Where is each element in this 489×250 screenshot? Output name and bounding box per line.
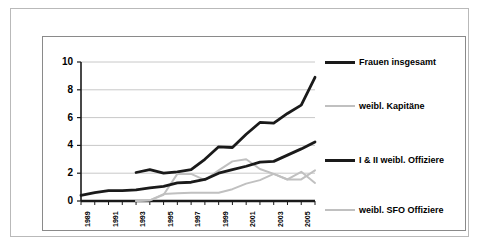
legend-line-swatch	[325, 209, 355, 211]
x-tick-label: 1997	[194, 211, 201, 227]
legend-item-0[interactable]: Frauen insgesamt	[325, 57, 436, 67]
x-tick-label: 1989	[84, 211, 91, 227]
x-tick-label: 1993	[139, 211, 146, 227]
legend-label: Frauen insgesamt	[359, 57, 436, 67]
series-line-2	[81, 142, 315, 196]
plot-area: 0246810 19891991199319951997199920012003…	[43, 37, 467, 232]
y-tick-label: 2	[53, 168, 73, 178]
legend-item-1[interactable]: weibl. Kapitäne	[325, 101, 425, 111]
x-tick-label: 1999	[222, 211, 229, 227]
legend-item-3[interactable]: weibl. SFO Offiziere	[325, 205, 444, 215]
y-tick-label: 0	[53, 196, 73, 206]
x-tick-label: 1991	[112, 211, 119, 227]
x-tick-label: 2003	[277, 211, 284, 227]
chart-screenshot: 0246810 19891991199319951997199920012003…	[0, 0, 489, 250]
legend-label: weibl. SFO Offiziere	[359, 205, 444, 215]
legend-line-swatch	[325, 61, 355, 64]
data-series-layer	[81, 77, 315, 201]
legend-line-swatch	[325, 105, 355, 107]
y-tick-label: 8	[53, 85, 73, 95]
legend-label: I & II weibl. Offiziere	[359, 155, 444, 165]
y-tick-label: 10	[53, 57, 73, 67]
legend-label: weibl. Kapitäne	[359, 101, 425, 111]
y-tick-label: 6	[53, 113, 73, 123]
chart-panel: 0246810 19891991199319951997199920012003…	[42, 36, 466, 231]
legend-item-2[interactable]: I & II weibl. Offiziere	[325, 155, 444, 165]
y-tick-label: 4	[53, 140, 73, 150]
series-line-0	[136, 77, 315, 173]
x-tick-label: 2001	[249, 211, 256, 227]
x-tick-label: 2005	[304, 211, 311, 227]
outer-frame: 0246810 19891991199319951997199920012003…	[10, 8, 469, 237]
x-tick-label: 1995	[167, 211, 174, 227]
legend-line-swatch	[325, 159, 355, 162]
